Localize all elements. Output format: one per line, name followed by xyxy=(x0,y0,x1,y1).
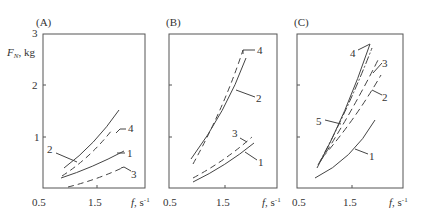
x-axis-label: f, s-1 xyxy=(131,196,150,208)
panel-b: (B) 0.5 1.5 f, s-1 4 2 3 1 xyxy=(163,16,281,208)
leader-4 xyxy=(243,50,255,54)
curve-label-2: 2 xyxy=(256,92,262,104)
curve-1 xyxy=(193,143,254,182)
leader-3 xyxy=(240,138,247,142)
leader-1 xyxy=(245,152,257,160)
curve-label-2: 2 xyxy=(382,91,388,103)
leader-1 xyxy=(355,149,368,154)
panel-c: (C) 0.5 1.5 f, s-1 4 3 2 5 1 xyxy=(292,16,408,208)
panel-title: (B) xyxy=(166,16,181,29)
leader-2 xyxy=(236,90,255,97)
curve-1 xyxy=(61,151,124,178)
curve-label-2: 2 xyxy=(47,143,53,155)
x-axis-label: f, s-1 xyxy=(389,196,408,208)
curve-label-4: 4 xyxy=(128,122,134,134)
leader-3 xyxy=(121,167,131,171)
curve-2 xyxy=(64,110,119,168)
y-tick-label: 2 xyxy=(32,79,38,91)
x-tick-label: 1.5 xyxy=(88,196,102,208)
curve-label-3: 3 xyxy=(382,57,388,69)
curve-label-3: 3 xyxy=(232,127,238,139)
curve-2 xyxy=(191,58,246,159)
curve-label-1: 1 xyxy=(127,147,133,159)
y-axis-label: FN, kg xyxy=(6,46,35,60)
curve-3 xyxy=(320,60,378,162)
figure: FN, kg (A) 3 2 1 0.5 1.5 f, s-1 2 4 1 3 … xyxy=(0,0,424,219)
leader-3 xyxy=(373,63,382,73)
curve-label-1: 1 xyxy=(369,150,375,162)
curve-1 xyxy=(315,120,375,178)
panel-title: (A) xyxy=(36,16,52,29)
x-tick-label: 0.5 xyxy=(292,196,306,208)
x-tick-label: 0.5 xyxy=(32,196,46,208)
curve-label-4: 4 xyxy=(350,47,356,59)
plot-frame xyxy=(43,34,145,188)
curve-4 xyxy=(62,130,112,176)
x-axis-label: f, s-1 xyxy=(262,196,281,208)
leader-2 xyxy=(372,90,382,95)
leader-5 xyxy=(325,120,341,124)
curve-4 xyxy=(193,50,243,164)
curve-label-4: 4 xyxy=(257,44,263,56)
curve-label-5: 5 xyxy=(316,115,322,127)
curve-4 xyxy=(317,44,370,168)
curve-label-3: 3 xyxy=(131,168,137,180)
panel-a: (A) 3 2 1 0.5 1.5 f, s-1 2 4 1 3 xyxy=(32,16,150,208)
leader-2 xyxy=(56,153,77,162)
panel-title: (C) xyxy=(294,16,309,29)
curve-5 xyxy=(318,48,372,165)
leader-4 xyxy=(116,129,126,133)
curve-2 xyxy=(322,75,381,158)
y-tick-label: 1 xyxy=(34,131,40,143)
x-tick-label: 1.5 xyxy=(343,196,357,208)
curve-label-1: 1 xyxy=(258,156,264,168)
x-tick-label: 1.5 xyxy=(216,196,230,208)
curve-3 xyxy=(68,168,122,187)
y-tick-label: 3 xyxy=(32,27,38,39)
x-tick-label: 0.5 xyxy=(163,196,177,208)
